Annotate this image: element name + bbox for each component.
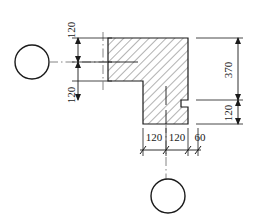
- left-marker-circle: [15, 45, 49, 79]
- dim-label-bottom-second: 120: [169, 131, 186, 143]
- bottom-marker-circle: [151, 179, 185, 213]
- dim-label-left-lower: 120: [65, 86, 77, 103]
- dim-label-right-lower: 120: [222, 104, 234, 121]
- bottom-circle-marker: [151, 179, 185, 213]
- left-circle-marker: [15, 45, 49, 79]
- technical-drawing: 120 120 370 120 120 120: [0, 0, 266, 221]
- dim-label-bottom-third: 60: [195, 131, 207, 143]
- dim-label-right-total: 370: [222, 61, 234, 78]
- hatched-section-body: [108, 38, 188, 124]
- bottom-dimension-chain: 120 120 60: [140, 128, 206, 156]
- right-dimension-chain: 370 120: [196, 38, 243, 124]
- dim-label-bottom-first: 120: [146, 131, 163, 143]
- drawing-canvas: 120 120 370 120 120 120: [0, 0, 266, 221]
- dim-label-left-upper: 120: [65, 21, 77, 38]
